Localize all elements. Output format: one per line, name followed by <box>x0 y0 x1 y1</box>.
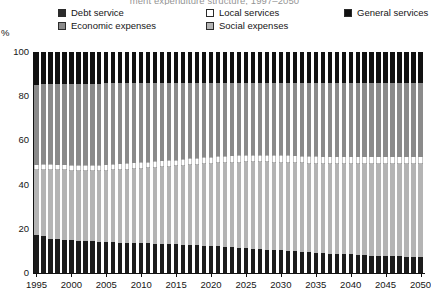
bar-segment <box>223 247 227 273</box>
bar-column[interactable] <box>418 52 422 273</box>
bar-column[interactable] <box>411 52 415 273</box>
bar-segment <box>356 156 360 164</box>
bar-segment <box>132 83 136 163</box>
bar-column[interactable] <box>230 52 234 273</box>
bar-segment <box>321 83 325 157</box>
bar-column[interactable] <box>321 52 325 273</box>
x-axis-tick-label: 2050 <box>410 279 431 290</box>
chart-legend: Debt service Local services General serv… <box>58 8 429 34</box>
bar-column[interactable] <box>90 52 94 273</box>
bar-column[interactable] <box>160 52 164 273</box>
legend-item-debt-service[interactable]: Debt service <box>58 8 124 18</box>
bar-column[interactable] <box>34 52 38 273</box>
bar-segment <box>174 52 178 84</box>
bar-column[interactable] <box>48 52 52 273</box>
bar-column[interactable] <box>244 52 248 273</box>
bar-segment <box>356 164 360 255</box>
bar-segment <box>328 253 332 273</box>
bar-segment <box>62 164 66 170</box>
bar-segment <box>293 155 297 163</box>
bar-column[interactable] <box>181 52 185 273</box>
bar-column[interactable] <box>362 52 366 273</box>
bar-column[interactable] <box>132 52 136 273</box>
bar-column[interactable] <box>118 52 122 273</box>
bar-column[interactable] <box>174 52 178 273</box>
bar-segment <box>90 52 94 84</box>
bar-column[interactable] <box>188 52 192 273</box>
x-axis-tick <box>421 273 422 277</box>
bar-segment <box>265 162 269 250</box>
bar-segment <box>139 83 143 162</box>
bar-segment <box>362 83 366 157</box>
bar-column[interactable] <box>293 52 297 273</box>
bar-column[interactable] <box>300 52 304 273</box>
bar-column[interactable] <box>335 52 339 273</box>
bar-segment <box>132 169 136 243</box>
bar-column[interactable] <box>383 52 387 273</box>
bar-column[interactable] <box>153 52 157 273</box>
bar-column[interactable] <box>55 52 59 273</box>
bar-segment <box>202 245 206 273</box>
bar-column[interactable] <box>265 52 269 273</box>
legend-item-economic-expenses[interactable]: Economic expenses <box>58 21 156 31</box>
bar-column[interactable] <box>328 52 332 273</box>
bar-segment <box>202 52 206 84</box>
bar-column[interactable] <box>209 52 213 273</box>
bar-column[interactable] <box>404 52 408 273</box>
bar-segment <box>230 247 234 273</box>
bar-column[interactable] <box>167 52 171 273</box>
bar-segment <box>69 165 73 171</box>
bar-column[interactable] <box>216 52 220 273</box>
bar-column[interactable] <box>62 52 66 273</box>
bar-column[interactable] <box>223 52 227 273</box>
bar-column[interactable] <box>349 52 353 273</box>
bar-column[interactable] <box>111 52 115 273</box>
bar-column[interactable] <box>237 52 241 273</box>
legend-item-social-expenses[interactable]: Social expenses <box>206 21 288 31</box>
bar-column[interactable] <box>307 52 311 273</box>
bar-column[interactable] <box>397 52 401 273</box>
x-axis-tick <box>36 273 37 277</box>
bar-column[interactable] <box>76 52 80 273</box>
bar-segment <box>356 52 360 84</box>
bar-column[interactable] <box>342 52 346 273</box>
bar-column[interactable] <box>97 52 101 273</box>
bar-column[interactable] <box>356 52 360 273</box>
bar-column[interactable] <box>139 52 143 273</box>
bar-segment <box>244 83 248 155</box>
bar-segment <box>97 83 101 165</box>
bar-segment <box>216 246 220 273</box>
bar-segment <box>174 244 178 273</box>
bar-column[interactable] <box>390 52 394 273</box>
bar-column[interactable] <box>69 52 73 273</box>
bar-segment <box>404 256 408 273</box>
bar-column[interactable] <box>314 52 318 273</box>
bar-column[interactable] <box>83 52 87 273</box>
bar-segment <box>272 155 276 163</box>
bar-column[interactable] <box>376 52 380 273</box>
bar-segment <box>48 52 52 84</box>
bar-segment <box>349 254 353 273</box>
bar-segment <box>272 162 276 250</box>
bar-column[interactable] <box>279 52 283 273</box>
legend-item-general-services[interactable]: General services <box>344 8 428 18</box>
bar-column[interactable] <box>251 52 255 273</box>
bar-column[interactable] <box>41 52 45 273</box>
bar-segment <box>342 52 346 84</box>
bar-segment <box>397 52 401 84</box>
bar-segment <box>104 83 108 165</box>
bar-column[interactable] <box>258 52 262 273</box>
bar-column[interactable] <box>125 52 129 273</box>
bar-column[interactable] <box>146 52 150 273</box>
bar-column[interactable] <box>202 52 206 273</box>
bar-segment <box>397 164 401 257</box>
bar-segment <box>69 170 73 240</box>
bar-segment <box>195 52 199 84</box>
legend-item-local-services[interactable]: Local services <box>206 8 279 18</box>
bar-column[interactable] <box>272 52 276 273</box>
bar-column[interactable] <box>104 52 108 273</box>
bar-column[interactable] <box>369 52 373 273</box>
bar-segment <box>104 52 108 84</box>
bar-column[interactable] <box>286 52 290 273</box>
bar-column[interactable] <box>195 52 199 273</box>
